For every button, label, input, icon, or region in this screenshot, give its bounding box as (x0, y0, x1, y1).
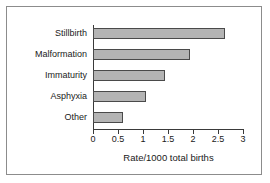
category-label-immaturity: Immaturity (0, 70, 87, 81)
x-tick-label: 0 (81, 134, 105, 145)
x-tick-label: 1 (131, 134, 155, 145)
category-label-malformation: Malformation (0, 49, 87, 60)
bar-rect (93, 49, 190, 60)
x-tick-label: 2.5 (206, 134, 230, 145)
figure-canvas: StillbirthMalformationImmaturityAsphyxia… (0, 0, 270, 183)
x-tick-label: 2 (181, 134, 205, 145)
bar-asphyxia (93, 91, 146, 102)
x-tick-label: 3 (231, 134, 255, 145)
category-label-other: Other (0, 112, 87, 123)
category-label-asphyxia: Asphyxia (0, 91, 87, 102)
bar-rect (93, 91, 146, 102)
x-tick-label: 1.5 (156, 134, 180, 145)
bar-rect (93, 28, 225, 39)
x-axis-title: Rate/1000 total births (93, 152, 244, 163)
x-tick-label: 0.5 (106, 134, 130, 145)
bar-malformation (93, 49, 190, 60)
bar-rect (93, 70, 165, 81)
bar-other (93, 112, 123, 123)
category-label-stillbirth: Stillbirth (0, 28, 87, 39)
bar-stillbirth (93, 28, 225, 39)
bar-rect (93, 112, 123, 123)
bar-immaturity (93, 70, 165, 81)
